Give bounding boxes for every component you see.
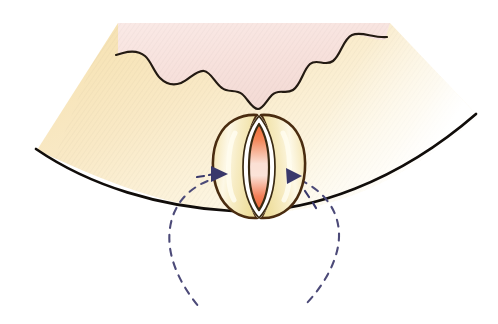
stoma [213, 115, 305, 218]
illustration-root [0, 0, 498, 324]
stomatal-pore [249, 124, 269, 210]
stoma-diagram [0, 0, 498, 324]
